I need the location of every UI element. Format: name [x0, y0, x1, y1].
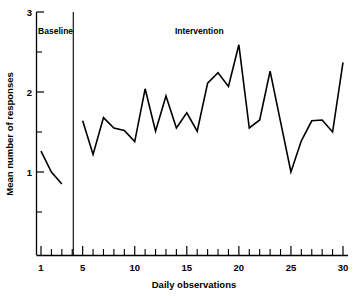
- line-chart-plot: 123 151015202530 Baseline Intervention M…: [0, 0, 354, 296]
- x-axis-title: Daily observations: [152, 279, 236, 290]
- x-tick-label: 20: [234, 262, 245, 273]
- x-tick-label: 5: [80, 262, 86, 273]
- x-tick-label: 25: [286, 262, 297, 273]
- x-tick-label: 1: [38, 262, 44, 273]
- x-tick-label: 10: [129, 262, 140, 273]
- x-tick-label: 30: [338, 262, 349, 273]
- x-tick-label: 15: [182, 262, 193, 273]
- y-axis-title: Mean number of responses: [4, 72, 15, 196]
- baseline-phase-label: Baseline: [38, 26, 73, 36]
- chart-figure: 123 151015202530 Baseline Intervention M…: [0, 0, 354, 296]
- y-tick-label: 1: [27, 167, 33, 178]
- y-tick-label: 2: [27, 87, 32, 98]
- intervention-phase-label: Intervention: [175, 26, 224, 36]
- y-tick-label: 3: [27, 7, 32, 18]
